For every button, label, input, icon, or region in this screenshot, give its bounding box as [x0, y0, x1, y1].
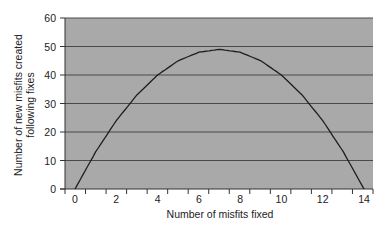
- y-tick-label: 0: [50, 183, 56, 195]
- y-tick-label: 30: [44, 98, 56, 110]
- x-tick-label: 8: [237, 193, 243, 205]
- x-tick-label: 2: [113, 193, 119, 205]
- x-tick-label: 4: [155, 193, 161, 205]
- y-axis-ticks: 0102030405060: [44, 12, 65, 195]
- x-tick-label: 14: [358, 193, 370, 205]
- x-tick-label: 10: [276, 193, 288, 205]
- y-axis-title-line2: following fixes: [24, 72, 36, 137]
- y-tick-label: 40: [44, 69, 56, 81]
- x-axis-title: Number of misfits fixed: [167, 208, 274, 220]
- x-axis-ticks: 02468101214: [65, 189, 373, 205]
- y-tick-label: 10: [44, 155, 56, 167]
- y-tick-label: 20: [44, 126, 56, 138]
- y-tick-label: 60: [44, 12, 56, 24]
- x-tick-label: 0: [72, 193, 78, 205]
- y-axis-title-line1: Number of new misfits created: [12, 34, 24, 176]
- y-tick-label: 50: [44, 41, 56, 53]
- x-tick-label: 12: [317, 193, 329, 205]
- line-chart: 0102030405060 02468101214 Number of misf…: [0, 0, 390, 234]
- x-tick-label: 6: [196, 193, 202, 205]
